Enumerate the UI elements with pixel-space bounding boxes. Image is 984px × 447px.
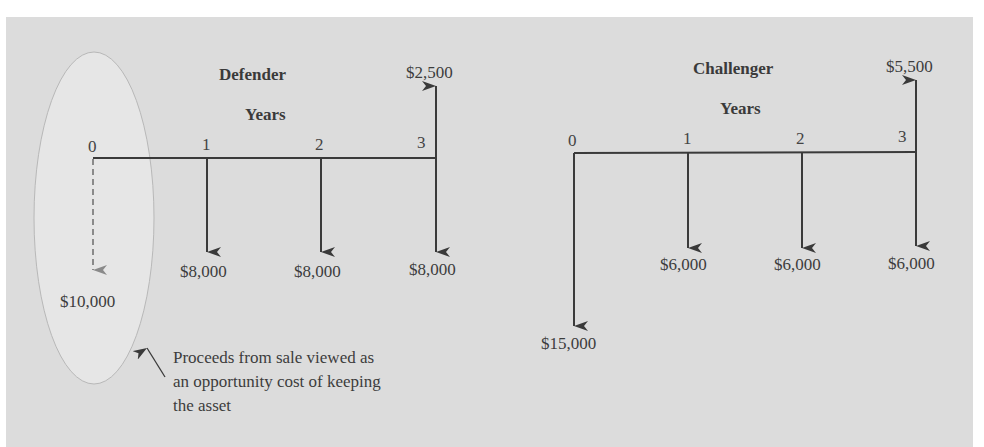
- defender-inflow-year-3: $2,500: [406, 64, 453, 81]
- challenger-axis-label: Years: [720, 100, 761, 117]
- challenger-tick-2: 2: [796, 130, 805, 147]
- challenger-time-axis: [574, 152, 916, 153]
- challenger-outflow-year-2: $6,000: [774, 256, 821, 273]
- defender-tick-2: 2: [315, 136, 324, 153]
- challenger-tick-0: 0: [568, 132, 577, 149]
- annotation-line-1: Proceeds from sale viewed as: [173, 346, 381, 370]
- defender-title: Defender: [219, 66, 286, 83]
- opportunity-cost-ellipse: [34, 52, 154, 384]
- challenger-outflow-year-3: $6,000: [888, 255, 935, 272]
- challenger-tick-1: 1: [683, 130, 692, 147]
- challenger-tick-3: 3: [898, 128, 907, 145]
- defender-tick-0: 0: [88, 138, 97, 155]
- challenger-title: Challenger: [693, 60, 773, 77]
- defender-outflow-year-0: $10,000: [60, 293, 115, 310]
- annotation-pointer-arrow: [147, 348, 165, 377]
- opportunity-cost-annotation: Proceeds from sale viewed as an opportun…: [173, 346, 381, 418]
- annotation-line-3: the asset: [173, 394, 381, 418]
- defender-outflow-year-3: $8,000: [409, 261, 456, 278]
- defender-tick-3: 3: [417, 134, 426, 151]
- defender-axis-label: Years: [245, 106, 286, 123]
- defender-outflow-year-1: $8,000: [180, 263, 227, 280]
- challenger-outflow-year-0: $15,000: [541, 335, 596, 352]
- challenger-outflow-year-1: $6,000: [660, 256, 707, 273]
- defender-tick-1: 1: [202, 136, 211, 153]
- annotation-line-2: an opportunity cost of keeping: [173, 370, 381, 394]
- defender-outflow-year-2: $8,000: [294, 263, 341, 280]
- challenger-inflow-year-3: $5,500: [886, 58, 933, 75]
